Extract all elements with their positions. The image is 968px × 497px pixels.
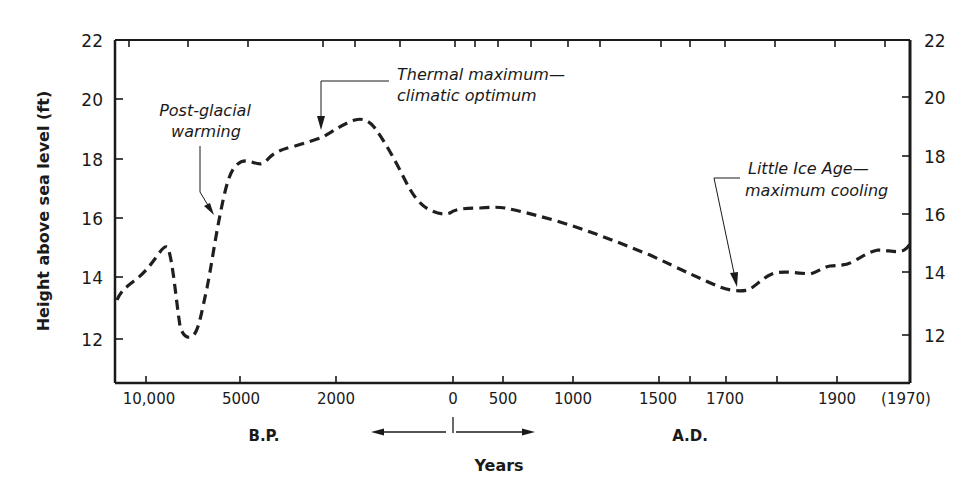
ytick-right-14: 14 [924, 263, 946, 283]
ytick-left-18: 18 [81, 150, 103, 170]
era-bp-label: B.P. [248, 427, 279, 445]
ytick-right-20: 20 [924, 88, 946, 108]
annotation-ice-line1: Little Ice Age— [748, 159, 869, 178]
left-y-tick-labels: 22 20 18 16 14 12 [81, 31, 103, 350]
x-tick-labels: 10,000 5000 2000 0 500 1000 1500 1700 19… [123, 390, 931, 408]
era-divider-arrows [371, 417, 535, 436]
annotation-thermal-line1: Thermal maximum— [397, 65, 565, 84]
arrowhead-icon [730, 272, 738, 287]
xtick-2000: 2000 [317, 390, 355, 408]
annotation-post-glacial-line2: warming [171, 122, 241, 141]
ytick-left-14: 14 [81, 268, 103, 288]
annotation-post-glacial: Post-glacial warming [159, 101, 251, 215]
xtick-0: 0 [448, 390, 458, 408]
y-axis-label: Height above sea level (ft) [34, 91, 53, 332]
annotation-thermal-line2: climatic optimum [397, 86, 537, 105]
ytick-left-16: 16 [81, 209, 103, 229]
ytick-left-12: 12 [81, 330, 103, 350]
xtick-1900: 1900 [818, 390, 856, 408]
ytick-right-18: 18 [924, 147, 946, 167]
x-axis-label: Years [473, 456, 523, 475]
ytick-left-22: 22 [81, 31, 103, 51]
xtick-500: 500 [489, 390, 518, 408]
annotation-post-glacial-line1: Post-glacial [159, 101, 251, 120]
xtick-1970: (1970) [881, 390, 931, 408]
sea-level-curve [117, 119, 910, 337]
ytick-left-20: 20 [81, 90, 103, 110]
xtick-1700: 1700 [706, 390, 744, 408]
ytick-right-16: 16 [924, 205, 946, 225]
ytick-right-22: 22 [924, 31, 946, 51]
annotation-little-ice-age: Little Ice Age— maximum cooling [714, 159, 888, 287]
sea-level-chart: 22 20 18 16 14 12 22 20 18 16 14 12 10,0… [0, 0, 968, 497]
xtick-1500: 1500 [639, 390, 677, 408]
era-ad-label: A.D. [672, 427, 708, 445]
xtick-5000: 5000 [222, 390, 260, 408]
annotation-ice-line2: maximum cooling [745, 181, 888, 200]
xtick-10000: 10,000 [123, 390, 176, 408]
xtick-1000: 1000 [554, 390, 592, 408]
arrowhead-icon [317, 116, 325, 130]
ytick-right-12: 12 [924, 326, 946, 346]
right-y-tick-labels: 22 20 18 16 14 12 [924, 31, 946, 346]
arrowhead-icon [204, 203, 214, 215]
